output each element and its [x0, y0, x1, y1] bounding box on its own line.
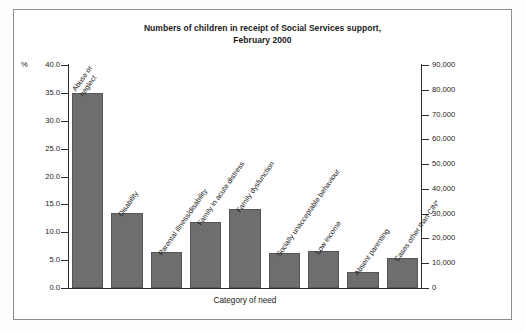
y-axis-left-tick-label: 5.0: [16, 256, 60, 264]
y-axis-right-tick-mark: [422, 65, 429, 66]
y-axis-right-tick-label: 60,000: [432, 135, 455, 143]
y-axis-right-tick-mark: [422, 115, 429, 116]
chart-title: Numbers of children in receipt of Social…: [60, 22, 465, 46]
bar: [229, 209, 260, 288]
y-axis-right-tick-label: 80,000: [432, 86, 455, 94]
y-axis-left-tick-label: 10.0: [16, 228, 60, 236]
y-axis-right-tick-mark: [422, 189, 429, 190]
y-axis-right-tick-mark: [422, 238, 429, 239]
y-axis-left-tick-mark: [61, 232, 68, 233]
y-axis-right-line: [421, 64, 422, 289]
chart-title-line-1: Numbers of children in receipt of Social…: [60, 22, 465, 34]
y-axis-left-tick-mark: [61, 177, 68, 178]
y-axis-left-tick-label: 0.0: [16, 284, 60, 292]
y-axis-right-tick-label: 40,000: [432, 185, 455, 193]
bar: [151, 252, 182, 288]
y-axis-right-tick-mark: [422, 288, 429, 289]
y-axis-right-tick-mark: [422, 263, 429, 264]
bar: [347, 272, 378, 288]
y-axis-left-tick-label: 25.0: [16, 145, 60, 153]
y-axis-right-tick-label: 0: [432, 284, 436, 292]
y-axis-right-tick-mark: [422, 90, 429, 91]
y-axis-left-line: [68, 64, 69, 289]
bar: [269, 253, 300, 288]
bar: [111, 213, 142, 288]
y-axis-right-tick-label: 10,000: [432, 259, 455, 267]
y-axis-right-tick-label: 20,000: [432, 234, 455, 242]
y-axis-left-tick-label: 15.0: [16, 200, 60, 208]
chart-title-line-2: February 2000: [60, 34, 465, 46]
bar: [190, 222, 221, 288]
y-axis-left-tick-mark: [61, 93, 68, 94]
x-axis-title: Category of need: [68, 296, 422, 305]
bar: [72, 93, 103, 288]
chart-figure: Numbers of children in receipt of Social…: [0, 0, 525, 331]
y-axis-left-tick-label: 35.0: [16, 89, 60, 97]
y-axis-left-tick-label: 30.0: [16, 117, 60, 125]
y-axis-left-tick-mark: [61, 149, 68, 150]
y-axis-left-tick-mark: [61, 204, 68, 205]
y-axis-right-tick-label: 50,000: [432, 160, 455, 168]
bar: [387, 258, 418, 288]
x-axis-line: [68, 288, 422, 289]
y-axis-left-tick-mark: [61, 260, 68, 261]
y-axis-left-tick-mark: [61, 288, 68, 289]
y-axis-left-tick-mark: [61, 121, 68, 122]
y-axis-left-tick-mark: [61, 65, 68, 66]
y-axis-right-tick-mark: [422, 139, 429, 140]
y-axis-right-tick-label: 70,000: [432, 111, 455, 119]
y-axis-right-tick-label: 90,000: [432, 61, 455, 69]
y-axis-right-tick-mark: [422, 164, 429, 165]
y-axis-left-tick-label: 20.0: [16, 173, 60, 181]
percent-symbol-label: %: [21, 61, 28, 69]
bar: [308, 251, 339, 288]
